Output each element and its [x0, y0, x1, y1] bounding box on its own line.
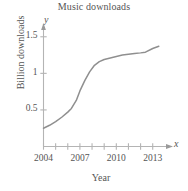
- chart-figure: Music downloads y x Billion downloads Ye…: [0, 0, 188, 191]
- x-axis-tick-label: 2013: [139, 153, 167, 163]
- y-axis-arrowhead: [41, 23, 46, 30]
- x-axis-tick-label: 2010: [102, 153, 130, 163]
- y-axis-tick-label: 1: [12, 67, 38, 77]
- y-axis-tick-label: 0.5: [12, 103, 38, 113]
- x-axis-tick-label: 2004: [30, 153, 58, 163]
- x-axis-tick-label: 2007: [66, 153, 94, 163]
- x-axis-arrowhead: [166, 144, 173, 149]
- data-series-line: [44, 46, 159, 128]
- y-axis-tick-label: 1.5: [12, 30, 38, 40]
